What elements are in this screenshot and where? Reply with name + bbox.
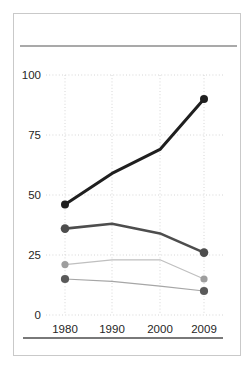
line-4-gray-marker bbox=[200, 287, 208, 295]
x-tick-label: 2009 bbox=[191, 323, 217, 335]
line-3-light-gray-line bbox=[65, 260, 204, 279]
chart-image: 02550751001980199020002009 bbox=[0, 0, 249, 369]
y-tick-label: 0 bbox=[35, 309, 41, 321]
x-tick-label: 2000 bbox=[147, 323, 173, 335]
line-1-black-line bbox=[65, 99, 204, 205]
line-chart-svg: 02550751001980199020002009 bbox=[0, 0, 249, 369]
y-tick-label: 75 bbox=[28, 129, 41, 141]
line-3-light-gray-marker bbox=[200, 275, 207, 282]
line-2-dark-gray-line bbox=[65, 224, 204, 253]
y-tick-label: 50 bbox=[28, 189, 41, 201]
line-2-dark-gray-marker bbox=[61, 224, 70, 233]
line-1-black-marker bbox=[61, 201, 69, 209]
y-tick-label: 25 bbox=[28, 249, 41, 261]
x-tick-label: 1990 bbox=[99, 323, 125, 335]
line-chart: 02550751001980199020002009 bbox=[0, 0, 249, 369]
x-tick-label: 1980 bbox=[52, 323, 78, 335]
line-1-black-marker bbox=[200, 95, 208, 103]
line-4-gray-marker bbox=[61, 275, 69, 283]
y-tick-label: 100 bbox=[22, 69, 41, 81]
line-3-light-gray-marker bbox=[61, 261, 68, 268]
line-4-gray-line bbox=[65, 279, 204, 291]
line-2-dark-gray-marker bbox=[200, 248, 209, 257]
